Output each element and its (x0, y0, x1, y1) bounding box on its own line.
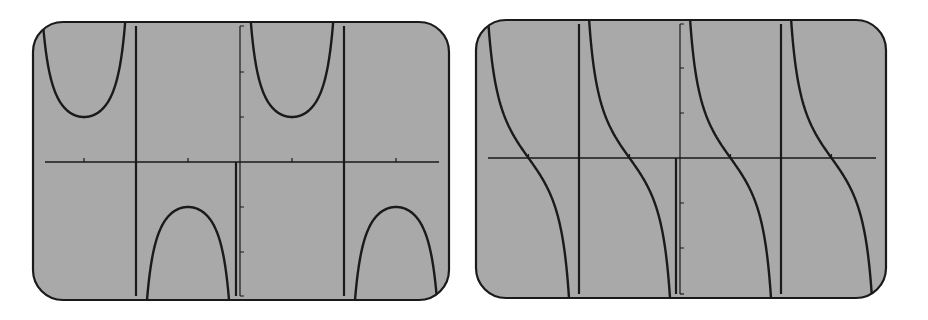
cot-graph (0, 0, 928, 320)
screen-background (476, 20, 886, 298)
cot-graph-screen (0, 0, 928, 320)
